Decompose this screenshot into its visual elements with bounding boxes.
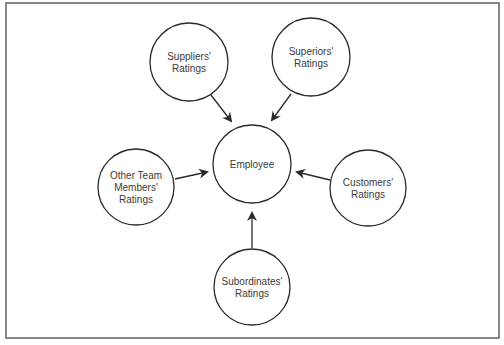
node-label-line: Subordinates' bbox=[222, 276, 283, 287]
node-label-line: Ratings bbox=[235, 288, 269, 299]
node-label-line: Superiors' bbox=[289, 46, 334, 57]
node-label-line: Customers' bbox=[343, 177, 393, 188]
rating-sources-diagram: EmployeeSuppliers'RatingsSuperiors'Ratin… bbox=[0, 0, 504, 345]
node-subordinates: Subordinates'Ratings bbox=[214, 249, 290, 325]
arrow-other-team-members-to-employee bbox=[175, 172, 207, 179]
node-employee: Employee bbox=[213, 125, 291, 203]
diagram-canvas: EmployeeSuppliers'RatingsSuperiors'Ratin… bbox=[0, 0, 504, 345]
node-suppliers: Suppliers'Ratings bbox=[150, 23, 228, 101]
node-label-line: Suppliers' bbox=[167, 51, 211, 62]
node-label-line: Other Team bbox=[110, 170, 162, 181]
node-label-line: Members' bbox=[114, 182, 158, 193]
arrow-customers-to-employee bbox=[297, 172, 330, 180]
arrow-suppliers-to-employee bbox=[211, 95, 231, 121]
node-label-line: Ratings bbox=[351, 189, 385, 200]
node-superiors: Superiors'Ratings bbox=[272, 18, 350, 96]
node-label-line: Ratings bbox=[119, 194, 153, 205]
nodes-group: EmployeeSuppliers'RatingsSuperiors'Ratin… bbox=[98, 18, 406, 325]
node-label-line: Ratings bbox=[172, 63, 206, 74]
node-label-line: Ratings bbox=[294, 58, 328, 69]
arrow-superiors-to-employee bbox=[272, 94, 291, 120]
node-customers: Customers'Ratings bbox=[330, 150, 406, 226]
node-label-line: Employee bbox=[230, 159, 275, 170]
node-other-team-members: Other TeamMembers'Ratings bbox=[98, 149, 174, 225]
